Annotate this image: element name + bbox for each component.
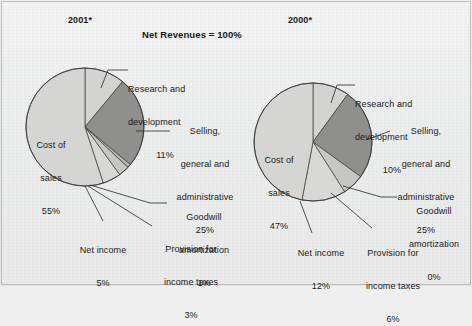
label-2001-selling-line1: Selling, <box>172 126 238 137</box>
leader-2001-provision <box>88 186 152 226</box>
label-2000-selling-line1: Selling, <box>392 126 460 137</box>
label-2001-netincome-line1: Net income <box>66 245 140 256</box>
label-2001-provision-line2: income taxes <box>155 277 227 288</box>
label-2000-costofsales-value: 47% <box>252 221 306 232</box>
label-2000-provision-line2: income taxes <box>355 281 431 292</box>
label-2001-provision-line1: Provision for <box>155 244 227 255</box>
label-2000-costofsales-line1: Cost of <box>252 155 306 166</box>
label-2001-selling-line2: general and <box>172 159 238 170</box>
label-2000-costofsales: Cost of sales 47% <box>252 133 306 254</box>
label-2000-provision-value: 6% <box>355 314 431 325</box>
figure-title: Net Revenues = 100% <box>142 29 242 40</box>
label-2000-costofsales-line2: sales <box>252 188 306 199</box>
label-2001-costofsales-line1: Cost of <box>24 140 78 151</box>
label-2001-provision: Provision for income taxes 3% <box>155 222 227 326</box>
label-2001-netincome-value: 5% <box>66 278 140 289</box>
year-label-2000: 2000* <box>288 15 312 26</box>
year-label-2001: 2001* <box>68 15 92 26</box>
label-2000-selling-line2: general and <box>392 159 460 170</box>
label-2000-provision-line1: Provision for <box>355 248 431 259</box>
label-2001-research-line1: Research and <box>128 84 220 95</box>
label-2001-costofsales-value: 55% <box>24 206 78 217</box>
leader-2001-netincome <box>85 186 103 221</box>
leader-2000-provision <box>331 193 372 228</box>
label-2000-provision: Provision for income taxes 6% <box>355 226 431 326</box>
label-2001-provision-value: 3% <box>155 310 227 321</box>
label-2001-costofsales: Cost of sales 55% <box>24 118 78 239</box>
label-2000-netincome-value: 12% <box>288 281 354 292</box>
label-2000-goodwill-line1: Goodwill <box>399 206 469 217</box>
label-2001-costofsales-line2: sales <box>24 173 78 184</box>
